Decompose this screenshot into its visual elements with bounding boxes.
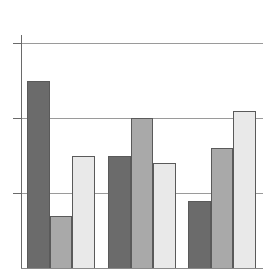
gridline xyxy=(21,43,263,44)
bar-series-1-group-1 xyxy=(27,81,50,269)
y-tick xyxy=(13,193,21,194)
y-tick xyxy=(13,43,21,44)
y-axis xyxy=(21,35,22,268)
bar-series-2-group-3 xyxy=(211,148,234,268)
bar-series-3-group-1 xyxy=(72,156,95,269)
bar-series-3-group-2 xyxy=(153,163,176,268)
y-tick xyxy=(13,118,21,119)
bar-series-1-group-2 xyxy=(108,156,131,269)
bar-series-3-group-3 xyxy=(233,111,256,269)
bar-series-1-group-3 xyxy=(188,201,211,269)
bar-series-2-group-2 xyxy=(131,118,154,268)
bar-series-2-group-1 xyxy=(50,216,73,269)
bar-chart xyxy=(0,0,276,269)
